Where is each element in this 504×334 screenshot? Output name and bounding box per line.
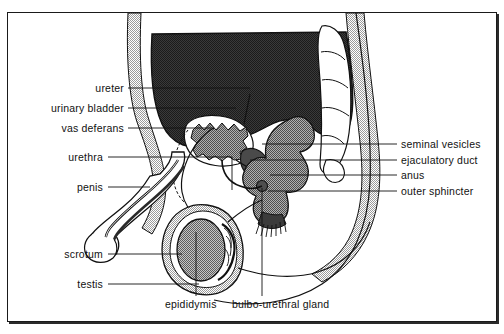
label-ejaculatory-duct: ejaculatory duct: [401, 155, 478, 166]
label-bulbo-urethral-gland: bulbo-urethral gland: [232, 299, 329, 310]
label-outer-sphincter: outer sphincter: [401, 186, 473, 197]
label-seminal-vesicles: seminal vesicles: [401, 139, 481, 150]
label-anus: anus: [401, 170, 425, 181]
testis-shape: [177, 219, 225, 281]
anatomy-diagram: [0, 0, 504, 334]
label-scrotum: scrotum: [64, 249, 103, 260]
label-urethra: urethra: [68, 152, 103, 163]
label-testis: testis: [77, 279, 103, 290]
label-vas-deferans: vas deferans: [61, 123, 124, 134]
label-penis: penis: [77, 182, 103, 193]
label-ureter: ureter: [95, 83, 124, 94]
label-urinary-bladder: urinary bladder: [51, 103, 124, 114]
label-epididymis: epididymis: [165, 299, 217, 310]
screenshot-root: ureter urinary bladder vas deferans uret…: [0, 0, 504, 334]
